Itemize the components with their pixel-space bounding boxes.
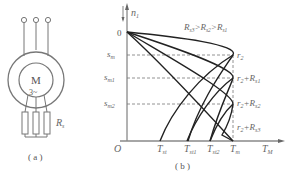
down-arrow-icon [122,17,125,22]
y-tick-sm: sm [107,49,116,60]
motor-phase-label: 3~ [29,88,38,97]
resistor-2 [33,112,39,134]
curve-label-r2: r2 [237,50,244,61]
resistor-1 [22,112,28,134]
y-axis-arrow [125,3,129,10]
x-axis-label: TM [262,143,274,155]
curve-label-r2-rs3: r2+Rs3 [237,122,260,133]
motor-label: M [31,74,41,86]
terminal-3 [45,17,50,22]
terminal-1 [21,17,26,22]
y-tick-sm2: sm2 [104,98,115,109]
guide-lines [127,55,233,141]
terminal-2 [33,17,38,22]
resistance-relation: Rs3>Rs2>Rs1 [183,22,228,33]
y-axis-label: n1 [131,7,139,19]
diagram-canvas: M 3~ Rs ( a ) n1 0 sm sm1 sm2 O Tst Tst1… [0,0,292,175]
resistor-3 [44,112,50,134]
x-axis-arrow [278,139,285,143]
origin-label: O [114,143,121,154]
x-tick-tm: Tm [230,143,241,155]
zero-label: 0 [117,28,122,38]
caption-b: ( b ) [175,161,190,171]
x-tick-tst: Tst [157,143,167,155]
x-tick-tst1: Tst1 [184,143,197,155]
caption-a: ( a ) [28,152,43,162]
x-tick-tst2: Tst2 [207,143,220,155]
curve-label-r2-rs1: r2+Rs1 [237,73,260,84]
curve-label-r2-rs2: r2+Rs2 [237,98,260,109]
resistor-label: Rs [55,117,65,129]
y-tick-sm1: sm1 [104,72,115,83]
